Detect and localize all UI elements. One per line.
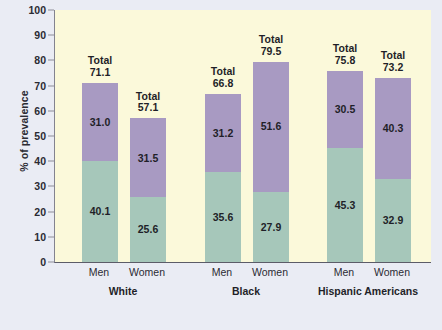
bar-segment-upper-value: 40.3 xyxy=(383,123,403,134)
bar-total-value: 71.1 xyxy=(68,67,132,79)
bar-segment-lower-value: 45.3 xyxy=(335,200,355,211)
bar-total-value: 73.2 xyxy=(361,62,425,74)
bar-segment-lower: 32.9 xyxy=(375,179,411,262)
plot-area: 31.040.1Total71.131.525.6Total57.131.235… xyxy=(54,10,431,263)
stacked-bar: 30.545.3 xyxy=(327,71,363,262)
bar-segment-lower: 35.6 xyxy=(205,172,241,262)
stacked-bar: 51.627.9 xyxy=(253,62,289,262)
bar-segment-lower: 45.3 xyxy=(327,148,363,262)
bar-segment-upper-value: 31.0 xyxy=(90,117,110,128)
x-axis-group-label: Hispanic Americans xyxy=(318,285,418,297)
bar-segment-lower-value: 40.1 xyxy=(90,206,110,217)
bar-total-label: Total66.8 xyxy=(191,66,255,90)
y-axis-tick-label: 20 xyxy=(10,206,46,218)
bar-segment-upper-value: 31.2 xyxy=(213,128,233,139)
stacked-bar: 31.235.6 xyxy=(205,94,241,262)
bar-total-value: 66.8 xyxy=(191,78,255,90)
bar-total-label: Total57.1 xyxy=(116,91,180,115)
bar-segment-lower: 27.9 xyxy=(253,192,289,262)
x-axis-category-label: Women xyxy=(360,266,424,278)
y-axis-ticks: 0102030405060708090100 xyxy=(0,0,54,330)
bar-segment-upper: 31.0 xyxy=(82,83,118,161)
bar-total-label: Total79.5 xyxy=(239,34,303,58)
bar-total-value: 57.1 xyxy=(116,102,180,114)
bar-segment-lower: 25.6 xyxy=(130,197,166,262)
bar-segment-upper: 30.5 xyxy=(327,71,363,148)
bar-segment-lower-value: 25.6 xyxy=(138,224,158,235)
y-axis-tick-label: 90 xyxy=(10,29,46,41)
x-axis-category-label: Women xyxy=(115,266,179,278)
bar-segment-upper: 31.5 xyxy=(130,118,166,197)
x-axis-group-label: White xyxy=(109,285,138,297)
bar-segment-lower-value: 35.6 xyxy=(213,212,233,223)
bar-segment-upper-value: 31.5 xyxy=(138,153,158,164)
y-axis-tick-label: 30 xyxy=(10,180,46,192)
bar-segment-upper: 51.6 xyxy=(253,62,289,192)
y-axis-tick-label: 0 xyxy=(10,256,46,268)
y-axis-tick-label: 80 xyxy=(10,54,46,66)
bar-segment-lower: 40.1 xyxy=(82,161,118,262)
y-axis-tick-label: 10 xyxy=(10,231,46,243)
bar-segment-upper: 40.3 xyxy=(375,78,411,180)
bar-segment-upper: 31.2 xyxy=(205,94,241,173)
y-axis-tick-label: 100 xyxy=(10,4,46,16)
stacked-bar: 40.332.9 xyxy=(375,78,411,262)
y-axis-tick-label: 60 xyxy=(10,105,46,117)
stacked-bar: 31.525.6 xyxy=(130,118,166,262)
bar-total-label: Total73.2 xyxy=(361,50,425,74)
bar-segment-lower-value: 32.9 xyxy=(383,215,403,226)
stacked-bar: 31.040.1 xyxy=(82,83,118,262)
y-axis-tick-label: 50 xyxy=(10,130,46,142)
bars-container: 31.040.1Total71.131.525.6Total57.131.235… xyxy=(55,10,431,262)
y-axis-tick-label: 70 xyxy=(10,80,46,92)
x-axis-category-label: Women xyxy=(238,266,302,278)
group-labels: WhiteBlackHispanic Americans xyxy=(54,285,430,303)
category-labels: MenWomenMenWomenMenWomen xyxy=(54,266,430,282)
bar-segment-upper-value: 30.5 xyxy=(335,104,355,115)
x-axis-group-label: Black xyxy=(232,285,260,297)
bar-segment-lower-value: 27.9 xyxy=(261,222,281,233)
bar-total-label: Total71.1 xyxy=(68,55,132,79)
y-axis-tick-label: 40 xyxy=(10,155,46,167)
bar-segment-upper-value: 51.6 xyxy=(261,121,281,132)
bar-total-value: 79.5 xyxy=(239,46,303,58)
chart-figure: % of prevalence 0102030405060708090100 3… xyxy=(0,0,442,330)
